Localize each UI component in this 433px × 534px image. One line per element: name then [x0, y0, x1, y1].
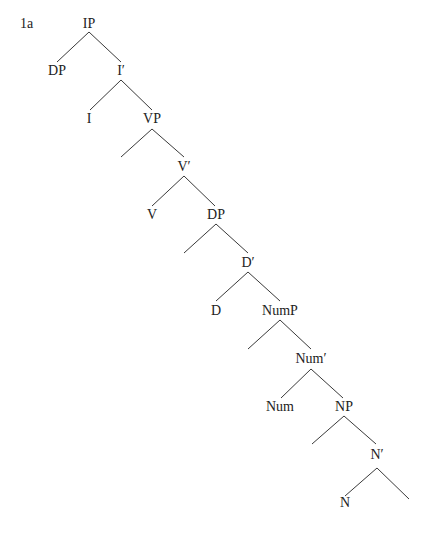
- node-dp: DP: [207, 208, 225, 222]
- node-num: Num: [266, 400, 294, 414]
- node-vp: VP: [143, 112, 161, 126]
- node-dp-specifier: DP: [48, 64, 66, 78]
- tree-edge-empty-branch: [184, 224, 216, 253]
- example-number-label: 1a: [20, 17, 33, 31]
- tree-edge: [216, 224, 248, 253]
- node-n-bar: N′: [370, 448, 383, 462]
- tree-edge: [184, 176, 215, 206]
- node-v: V: [147, 208, 157, 222]
- tree-edge: [152, 176, 184, 206]
- tree-edge: [57, 32, 89, 62]
- tree-edge-empty-branch: [248, 320, 280, 349]
- tree-edge-empty-branch: [312, 416, 344, 444]
- node-v-bar: V′: [177, 160, 190, 174]
- node-num-bar: Num′: [295, 352, 326, 366]
- node-i: I: [87, 112, 92, 126]
- tree-edge: [248, 272, 280, 301]
- node-n: N: [340, 496, 350, 510]
- node-ip: IP: [83, 17, 95, 31]
- tree-edge: [281, 369, 311, 398]
- node-i-bar: I′: [117, 64, 125, 78]
- tree-edge: [121, 80, 152, 110]
- tree-edge: [216, 272, 248, 301]
- tree-edge: [311, 369, 343, 398]
- tree-edge: [345, 468, 377, 496]
- tree-edge-empty-branch: [121, 129, 152, 157]
- node-d-bar: D′: [241, 256, 254, 270]
- node-nump: NumP: [262, 304, 298, 318]
- tree-edge: [90, 80, 121, 110]
- tree-edges: [0, 0, 433, 534]
- node-np: NP: [335, 400, 353, 414]
- tree-edge: [89, 32, 121, 62]
- tree-edge: [280, 320, 311, 349]
- node-d: D: [211, 304, 221, 318]
- tree-edge: [152, 129, 184, 157]
- tree-edge: [344, 416, 376, 444]
- tree-edge-empty-branch: [377, 468, 409, 499]
